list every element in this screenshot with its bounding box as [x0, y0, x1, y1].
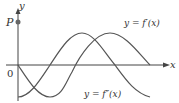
origin-label: 0	[7, 68, 13, 79]
f-double-prime-label: y = f″(x)	[83, 89, 122, 99]
derivative-graph: y P 0 x y = f′(x) y = f″(x)	[0, 0, 179, 103]
point-p	[16, 20, 21, 25]
y-axis-label: y	[18, 0, 25, 11]
x-axis-label: x	[170, 59, 176, 70]
f-prime-label: y = f′(x)	[123, 18, 160, 28]
point-p-label: P	[5, 16, 14, 29]
x-axis-arrow-icon	[163, 63, 170, 68]
